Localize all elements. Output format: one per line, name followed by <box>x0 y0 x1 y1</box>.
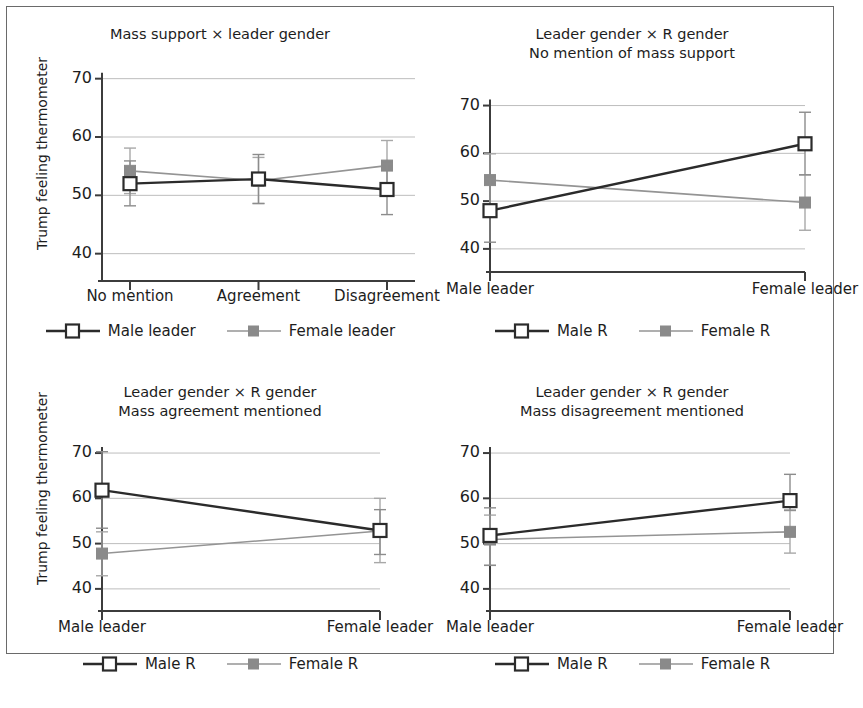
legend-swatch-male-icon <box>494 655 550 673</box>
legend-swatch-female-icon <box>638 655 694 673</box>
legend-label: Male R <box>557 655 608 673</box>
legend-item[interactable]: Female R <box>638 655 770 673</box>
y-tick-label: 50 <box>432 533 480 552</box>
x-tick-label: Female leader <box>700 618 863 636</box>
y-tick-label: 70 <box>432 442 480 461</box>
legend-item[interactable]: Male R <box>494 655 608 673</box>
panel-legend: Male RFemale R <box>432 655 832 673</box>
legend-label: Female R <box>701 655 770 673</box>
y-tick-label: 40 <box>432 578 480 597</box>
x-tick-label: Male leader <box>400 618 580 636</box>
y-tick-label: 60 <box>432 487 480 506</box>
